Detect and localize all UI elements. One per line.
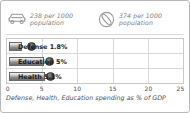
stat-chart-card: 238 per 1000 population 374 per 1000 pop…: [0, 0, 190, 113]
bar-label-education: Education 5%: [18, 58, 67, 66]
car-icon: [6, 9, 28, 29]
bar-label-defense: Defense 1.8%: [18, 43, 67, 51]
bar-label-health: Health 5.1%: [18, 73, 62, 81]
stat-item-vehicles: 238 per 1000 population: [6, 9, 95, 29]
x-tick-5: 5: [40, 85, 44, 92]
bar-row-defense[interactable]: Defense 1.8%: [7, 39, 183, 54]
stat-value-phones: 374 per 1000 population: [117, 12, 184, 27]
bar-row-education[interactable]: Education 5%: [7, 54, 183, 69]
x-tick-10: 10: [73, 85, 81, 92]
stat-item-phones: 374 per 1000 population: [95, 9, 184, 29]
x-axis: 0 5 10 15 20 25: [6, 84, 184, 94]
phone-circle-icon: [95, 9, 117, 29]
chart-caption: Defense, Health, Education spending as %…: [6, 94, 184, 101]
x-tick-20: 20: [145, 85, 153, 92]
bar-chart: Defense 1.8% Education 5% Health 5.1% 0 …: [6, 38, 184, 101]
stats-strip: 238 per 1000 population 374 per 1000 pop…: [6, 5, 184, 35]
x-tick-0: 0: [6, 85, 10, 92]
bar-row-health[interactable]: Health 5.1%: [7, 69, 183, 84]
x-tick-25: 25: [177, 85, 185, 92]
stat-value-vehicles: 238 per 1000 population: [28, 12, 95, 27]
x-tick-15: 15: [109, 85, 117, 92]
plot-area: Defense 1.8% Education 5% Health 5.1%: [6, 38, 184, 84]
